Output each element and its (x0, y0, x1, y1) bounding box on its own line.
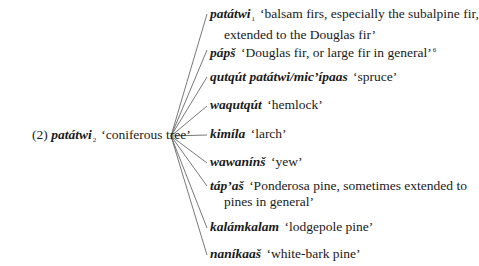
leaf-gloss: ‘balsam firs, especially the subalpine f… (260, 6, 479, 21)
leaf-gloss-continuation: pines in general’ (210, 194, 467, 210)
leaf-node: naníkaaš ‘white-bark pine’ (210, 246, 361, 262)
leaf-gloss-continuation: extended to the Douglas fir’ (210, 27, 479, 43)
leaf-node: patátwi1‘balsam firs, especially the sub… (210, 6, 479, 43)
leaf-gloss: ‘spruce’ (353, 69, 397, 84)
leaf-node: qutqút patátwi/mic’ípaas ‘spruce’ (210, 69, 397, 85)
leaf-term: pápš (210, 45, 236, 60)
leaf-term: wawanínš (210, 154, 266, 169)
leaf-term: qutqút patátwi/mic’ípaas (210, 69, 348, 84)
leaf-term: kalámkalam (210, 219, 279, 234)
root-node: (2) patátwi2‘coniferous tree’ (32, 127, 191, 148)
leaf-term: naníkaaš (210, 246, 261, 261)
branch-line-1 (171, 50, 207, 136)
leaf-term: waqutqút (210, 97, 262, 112)
leaf-term: patátwi (210, 6, 251, 21)
root-gloss: ‘coniferous tree’ (101, 127, 191, 142)
root-term: patátwi (51, 127, 92, 142)
example-number: (2) (32, 127, 48, 142)
leaf-subscript: 1 (252, 15, 256, 23)
leaf-gloss: ‘hemlock’ (267, 97, 322, 112)
taxonomy-tree-diagram: (2) patátwi2‘coniferous tree’ patátwi1‘b… (0, 0, 479, 266)
leaf-gloss: ‘Douglas fir, or large fir in general’ (241, 45, 432, 60)
root-subscript: 2 (93, 136, 97, 144)
leaf-term: kimíla (210, 126, 245, 141)
leaf-node: kalámkalam ‘lodgepole pine’ (210, 219, 373, 235)
footnote-marker: 6 (433, 46, 437, 54)
leaf-node: waqutqút ‘hemlock’ (210, 97, 323, 113)
leaf-gloss: ‘Ponderosa pine, sometimes extended to (249, 178, 467, 193)
leaf-gloss: ‘larch’ (251, 126, 287, 141)
leaf-node: wawanínš ‘yew’ (210, 154, 302, 170)
leaf-gloss: ‘white-bark pine’ (266, 246, 360, 261)
leaf-gloss: ‘lodgepole pine’ (284, 219, 373, 234)
leaf-term: táp’aš (210, 178, 244, 193)
leaf-node: pápš ‘Douglas fir, or large fir in gener… (210, 42, 436, 61)
leaf-node: kimíla ‘larch’ (210, 126, 287, 142)
leaf-gloss: ‘yew’ (271, 154, 302, 169)
branch-line-8 (171, 136, 207, 255)
leaf-node: táp’aš ‘Ponderosa pine, sometimes extend… (210, 178, 467, 210)
branch-line-0 (171, 14, 207, 136)
